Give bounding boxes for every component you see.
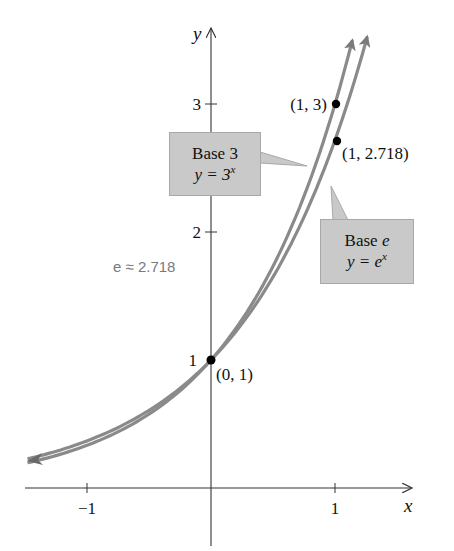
base3-callout: Base 3 y = 3x bbox=[169, 132, 261, 196]
point-label-1-e: (1, 2.718) bbox=[342, 144, 409, 163]
y-tick-label-1: 1 bbox=[189, 351, 198, 370]
exponential-graph: −1 1 1 2 3 x y (1, 3) (1, 2.718) (0, 1) … bbox=[0, 0, 454, 551]
base3-equation: y = 3 bbox=[195, 165, 231, 184]
y-axis-label: y bbox=[191, 23, 202, 44]
basee-callout-pointer bbox=[331, 186, 348, 220]
x-tick-label-neg1: −1 bbox=[78, 499, 96, 518]
base3-base: 3 bbox=[229, 144, 238, 163]
basee-callout: Base e y = ex bbox=[320, 219, 414, 284]
base3-exponent: x bbox=[231, 163, 236, 175]
y-tick-label-2: 2 bbox=[193, 223, 202, 242]
x-tick-label-1: 1 bbox=[331, 499, 340, 518]
e-approx-note: e ≈ 2.718 bbox=[113, 258, 175, 275]
y-tick-label-3: 3 bbox=[193, 95, 202, 114]
point-label-0-1: (0, 1) bbox=[216, 365, 253, 384]
base3-callout-pointer bbox=[260, 152, 307, 166]
basee-exponent: x bbox=[382, 250, 387, 262]
point-0-1 bbox=[207, 356, 216, 365]
basee-equation: y = e bbox=[347, 252, 382, 271]
point-1-3 bbox=[332, 100, 340, 108]
x-axis-label: x bbox=[403, 495, 413, 516]
basee-base: e bbox=[382, 231, 390, 250]
base3-title: Base bbox=[192, 144, 225, 163]
point-label-1-3: (1, 3) bbox=[290, 95, 327, 114]
basee-title: Base bbox=[345, 231, 378, 250]
point-1-e bbox=[333, 137, 341, 145]
